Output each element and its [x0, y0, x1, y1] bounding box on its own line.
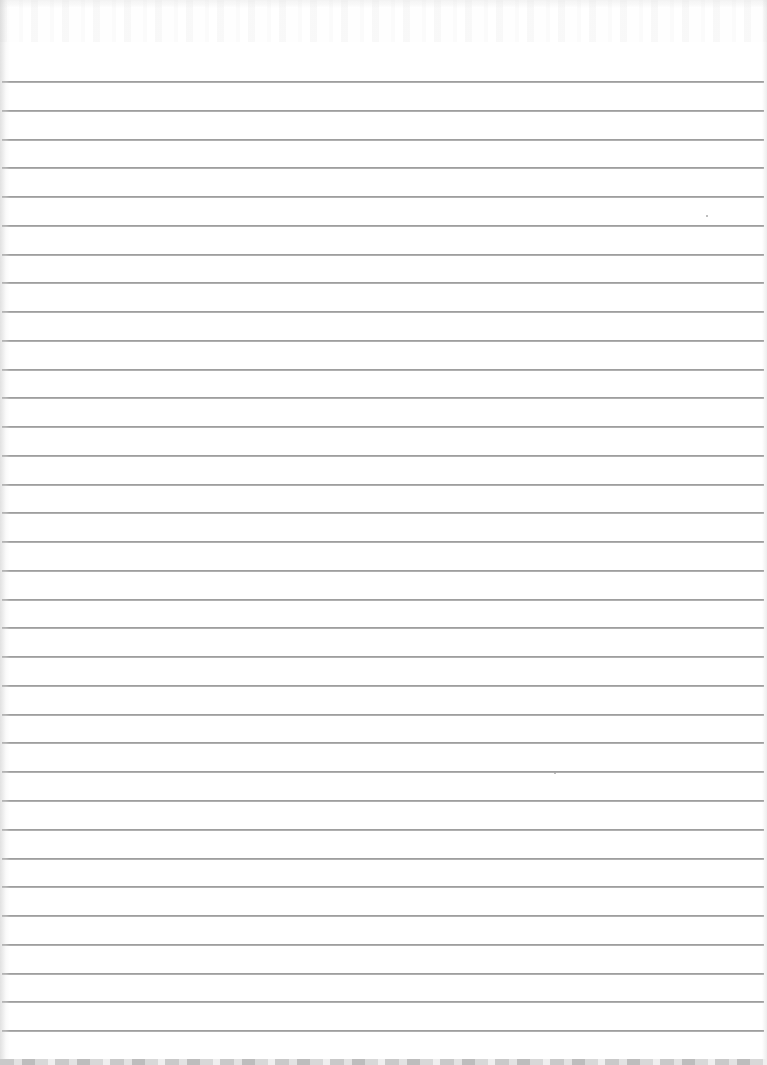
ruled-line — [2, 599, 764, 601]
right-edge-shadow — [762, 0, 767, 1065]
ruled-line — [2, 1030, 764, 1032]
ruled-line — [2, 369, 764, 371]
ruled-line — [2, 484, 764, 486]
ruled-line — [2, 196, 764, 198]
ruled-line — [2, 800, 764, 802]
ruled-line — [2, 311, 764, 313]
ruled-line — [2, 886, 764, 888]
scan-bottom-strip — [0, 1059, 767, 1065]
ruled-line — [2, 829, 764, 831]
ruled-line — [2, 685, 764, 687]
ruled-line — [2, 973, 764, 975]
ruled-line — [2, 771, 764, 773]
ruled-line — [2, 340, 764, 342]
ruled-line — [2, 225, 764, 227]
ruled-line — [2, 81, 764, 83]
ruled-line — [2, 455, 764, 457]
ruled-line — [2, 541, 764, 543]
lined-paper-page — [0, 0, 767, 1065]
ruled-line — [2, 110, 764, 112]
ruled-line — [2, 139, 764, 141]
ruled-line — [2, 426, 764, 428]
ruled-line — [2, 1001, 764, 1003]
scan-bleed-through-band — [0, 0, 767, 42]
dust-speck — [706, 215, 708, 217]
ruled-line — [2, 167, 764, 169]
ruled-line — [2, 944, 764, 946]
ruled-line — [2, 858, 764, 860]
left-edge-shadow — [0, 0, 10, 1065]
ruled-line — [2, 254, 764, 256]
ruled-line — [2, 512, 764, 514]
ruled-line — [2, 714, 764, 716]
ruled-line — [2, 627, 764, 629]
ruled-line — [2, 915, 764, 917]
ruled-line — [2, 282, 764, 284]
dust-speck — [554, 772, 556, 774]
ruled-line — [2, 742, 764, 744]
ruled-line — [2, 570, 764, 572]
ruled-line — [2, 397, 764, 399]
ruled-line — [2, 656, 764, 658]
